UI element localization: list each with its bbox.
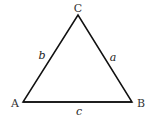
triangle-diagram: C A B b a c — [0, 0, 152, 128]
vertex-label-c: C — [74, 2, 82, 15]
vertex-label-b: B — [137, 97, 145, 110]
side-label-c: c — [76, 105, 82, 118]
side-label-b: b — [38, 49, 45, 62]
side-label-a: a — [110, 51, 117, 64]
vertex-label-a: A — [10, 97, 20, 110]
